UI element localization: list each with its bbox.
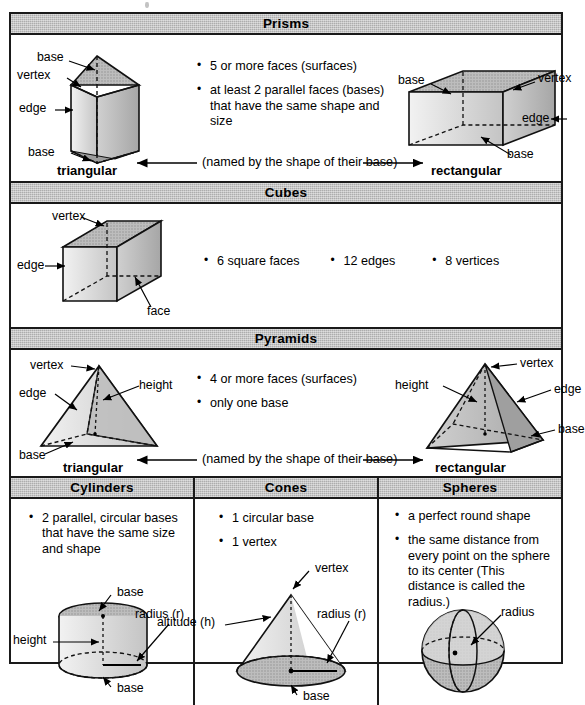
tri-pyramid-label-vertex: vertex — [30, 358, 64, 372]
rect-prism-label-base-bottom: base — [507, 147, 534, 161]
rect-pyramid-label-height: height — [395, 378, 429, 392]
cylinder-figure — [11, 499, 195, 705]
panel-cylinders: 2 parallel, circular bases that have the… — [11, 499, 193, 705]
prism-label-edge: edge — [19, 101, 46, 115]
cylinder-label-base-top: base — [117, 585, 144, 599]
pyramid-bullet: 4 or more faces (surfaces) — [197, 372, 387, 387]
prism-bullet: 5 or more faces (surfaces) — [197, 59, 397, 74]
section-header-cubes: Cubes — [11, 181, 561, 204]
solid-figures-chart: Prisms — [9, 12, 563, 664]
cylinder-label-height: height — [13, 633, 47, 647]
section-header-spheres: Spheres — [377, 478, 561, 497]
rect-prism-label-base-top: base — [398, 73, 425, 87]
prism-label-base-top: base — [37, 50, 64, 64]
cube-bullet: 8 vertices — [432, 254, 534, 269]
section-body-prisms: base vertex edge base triangular base ve… — [11, 35, 561, 181]
cone-figure — [195, 499, 379, 705]
section-header-cylinders: Cylinders — [11, 478, 193, 497]
pyramids-named-by: (named by the shape of their base) — [202, 452, 397, 466]
rect-pyramid-label-base: base — [558, 422, 585, 436]
prisms-named-by: (named by the shape of their base) — [202, 155, 397, 169]
pyramid-name-rectangular: rectangular — [435, 460, 506, 475]
panel-cones: 1 circular base 1 vertex vertex altitude… — [193, 499, 377, 705]
tri-pyramid-label-height: height — [139, 378, 173, 392]
cube-label-vertex: vertex — [52, 209, 86, 223]
cube-bullet: 12 edges — [331, 254, 433, 269]
section-header-pyramids: Pyramids — [11, 327, 561, 350]
pyramid-bullet: only one base — [197, 396, 387, 411]
tri-pyramid-label-base: base — [19, 448, 46, 462]
prism-name-rectangular: rectangular — [431, 163, 502, 178]
cube-bullet: 6 square faces — [204, 254, 331, 269]
section-body-cubes: vertex edge face 6 square faces 12 edges… — [11, 204, 561, 327]
cube-label-face: face — [147, 304, 170, 318]
section-header-prisms: Prisms — [11, 14, 561, 35]
section-header-row-3: Cylinders Cones Spheres — [11, 476, 561, 499]
prism-name-triangular: triangular — [57, 163, 117, 178]
rect-pyramid-label-vertex: vertex — [520, 356, 554, 370]
cube-label-edge: edge — [17, 258, 44, 272]
section-header-cones: Cones — [193, 478, 377, 497]
rect-prism-label-edge: edge — [522, 111, 549, 125]
cylinder-label-base-bottom: base — [117, 681, 144, 695]
section-body-row-3: 2 parallel, circular bases that have the… — [11, 499, 561, 705]
section-body-pyramids: vertex height edge base triangular verte… — [11, 350, 561, 476]
rect-prism-label-vertex: vertex — [538, 71, 572, 85]
rect-pyramid-label-edge: edge — [554, 382, 581, 396]
prism-label-vertex: vertex — [17, 68, 51, 82]
prism-bullet: at least 2 parallel faces (bases) that h… — [197, 83, 397, 129]
scan-artifact — [145, 2, 149, 8]
sphere-figure — [379, 499, 563, 705]
cone-label-radius: radius (r) — [317, 607, 366, 621]
pyramid-name-triangular: triangular — [63, 460, 123, 475]
panel-spheres: a perfect round shape the same distance … — [377, 499, 561, 705]
cone-label-altitude: altitude (h) — [157, 615, 215, 629]
cone-label-base: base — [303, 689, 330, 703]
tri-pyramid-label-edge: edge — [19, 386, 46, 400]
rectangular-pyramid-figure — [427, 364, 555, 452]
sphere-label-radius: radius — [501, 605, 535, 619]
prism-label-base-bottom: base — [28, 145, 55, 159]
cone-label-vertex: vertex — [315, 561, 349, 575]
